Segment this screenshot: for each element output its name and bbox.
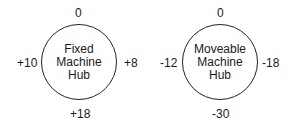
- moveable-hub-label-line-3: Hub: [183, 69, 257, 82]
- moveable-hub-bottom-value: -30: [212, 108, 229, 120]
- fixed-hub-top-value: 0: [75, 7, 82, 19]
- fixed-hub-label-line-3: Hub: [42, 69, 116, 82]
- fixed-hub-bottom-value: +18: [70, 108, 90, 120]
- moveable-hub-right-value: -18: [262, 57, 279, 69]
- fixed-hub-label: Fixed Machine Hub: [42, 43, 116, 82]
- fixed-hub-circle: Fixed Machine Hub: [41, 24, 117, 100]
- moveable-hub-top-value: 0: [217, 7, 224, 19]
- moveable-hub-left-value: -12: [160, 57, 177, 69]
- moveable-hub-label: Moveable Machine Hub: [183, 43, 257, 82]
- moveable-hub-circle: Moveable Machine Hub: [182, 24, 258, 100]
- fixed-hub-right-value: +8: [124, 57, 138, 69]
- fixed-hub-left-value: +10: [17, 57, 37, 69]
